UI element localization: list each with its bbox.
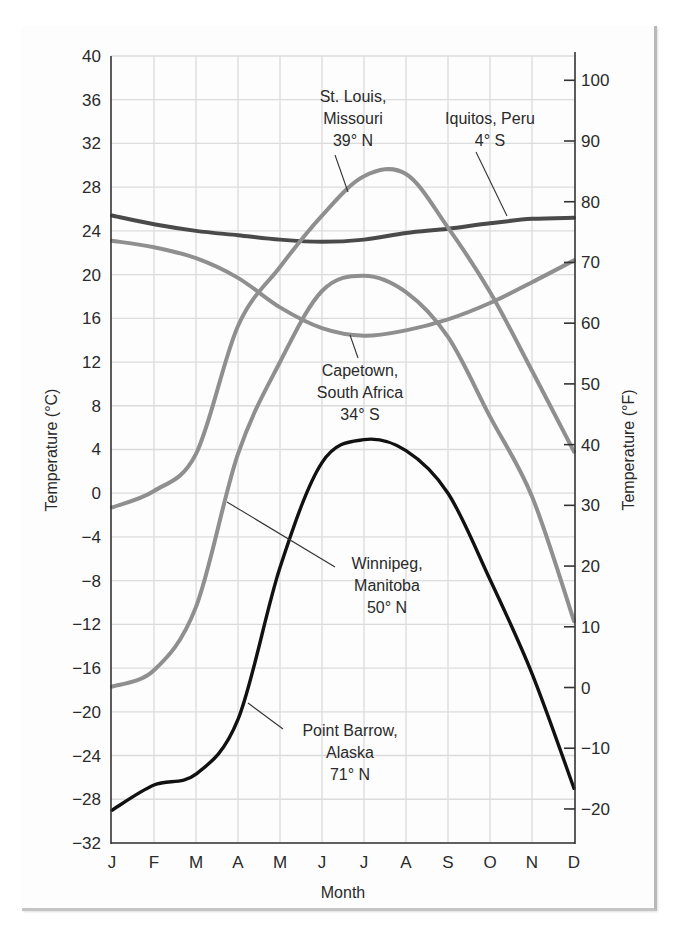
annotation-text: Winnipeg, <box>351 555 422 572</box>
annotation-winnipeg: Winnipeg,Manitoba50° N <box>227 502 423 616</box>
y-tick-label-left: 20 <box>82 266 101 285</box>
y-tick-label-right: 80 <box>581 193 600 212</box>
annotation-text: Capetown, <box>322 362 399 379</box>
y-tick-label-left: 24 <box>82 222 101 241</box>
y-tick-label-left: 32 <box>82 134 101 153</box>
y-tick-label-right: −20 <box>581 800 610 819</box>
x-tick-label: A <box>232 853 244 872</box>
annotation-text: Alaska <box>326 744 374 761</box>
annotation-text: South Africa <box>317 384 403 401</box>
x-tick-label: O <box>483 853 496 872</box>
annotation-text: Point Barrow, <box>302 722 397 739</box>
y-axis-title-left: Temperature (°C) <box>43 389 60 512</box>
x-tick-label: J <box>318 853 327 872</box>
y-tick-label-right: 100 <box>581 71 609 90</box>
x-tick-label: A <box>400 853 412 872</box>
y-tick-label-right: 0 <box>581 679 590 698</box>
series-lines <box>112 169 574 810</box>
x-tick-label: F <box>149 853 159 872</box>
x-tick-label: D <box>568 853 580 872</box>
annotation-text: 50° N <box>367 599 407 616</box>
y-axis-title-right: Temperature (°F) <box>620 389 637 510</box>
y-tick-label-right: 50 <box>581 375 600 394</box>
leader-line <box>350 335 358 358</box>
annotation-text: 39° N <box>333 132 373 149</box>
y-tick-label-left: 4 <box>92 440 101 459</box>
y-tick-label-left: 12 <box>82 353 101 372</box>
annotation-text: 34° S <box>340 406 379 423</box>
y-tick-label-left: −12 <box>72 615 101 634</box>
leader-line <box>248 703 283 729</box>
annotation-text: Manitoba <box>354 577 420 594</box>
y-tick-label-right: 90 <box>581 132 600 151</box>
y-tick-label-right: 70 <box>581 253 600 272</box>
annotation-text: Iquitos, Peru <box>445 110 535 127</box>
y-tick-label-right: 40 <box>581 436 600 455</box>
x-tick-label: M <box>273 853 287 872</box>
x-tick-label: M <box>189 853 203 872</box>
y-tick-label-left: −32 <box>72 834 101 853</box>
y-tick-label-left: −28 <box>72 790 101 809</box>
annotation-st-louis: St. Louis,Missouri39° N <box>320 88 387 192</box>
y-tick-label-left: 0 <box>92 484 101 503</box>
annotations: St. Louis,Missouri39° NIquitos, Peru4° S… <box>227 88 535 783</box>
y-tick-label-left: 8 <box>92 397 101 416</box>
leader-line <box>476 152 507 216</box>
y-tick-label-left: 36 <box>82 91 101 110</box>
y-tick-label-left: 16 <box>82 309 101 328</box>
y-tick-label-left: −24 <box>72 747 101 766</box>
x-tick-label: N <box>526 853 538 872</box>
y-tick-label-left: −16 <box>72 659 101 678</box>
y-tick-label-left: −4 <box>82 528 101 547</box>
y-tick-label-left: −8 <box>82 572 101 591</box>
series-line-iquitos <box>112 216 574 242</box>
y-tick-label-right: −10 <box>581 739 610 758</box>
annotation-point-barrow: Point Barrow,Alaska71° N <box>248 703 398 783</box>
y-tick-label-right: 30 <box>581 496 600 515</box>
x-tick-label: J <box>360 853 369 872</box>
temperature-chart: 4036322824201612840−4−8−12−16−20−24−28−3… <box>0 0 683 942</box>
annotation-text: Missouri <box>323 110 383 127</box>
x-tick-label: J <box>108 853 117 872</box>
y-tick-label-left: −20 <box>72 703 101 722</box>
x-tick-label: S <box>442 853 453 872</box>
y-tick-label-left: 40 <box>82 47 101 66</box>
y-tick-label-right: 10 <box>581 618 600 637</box>
series-line-winnipeg <box>112 276 574 687</box>
leader-line <box>335 155 348 192</box>
y-tick-label-left: 28 <box>82 178 101 197</box>
leader-line <box>227 502 335 567</box>
y-tick-label-right: 60 <box>581 314 600 333</box>
x-axis-title: Month <box>321 884 365 901</box>
y-tick-label-right: 20 <box>581 557 600 576</box>
annotation-text: 71° N <box>330 766 370 783</box>
annotation-text: St. Louis, <box>320 88 387 105</box>
annotation-text: 4° S <box>475 132 505 149</box>
annotation-capetown: Capetown,South Africa34° S <box>317 335 403 423</box>
